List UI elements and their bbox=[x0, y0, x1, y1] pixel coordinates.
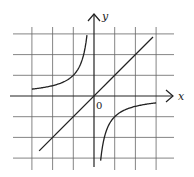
hyperbola-branch-upper-left bbox=[32, 35, 87, 89]
coordinate-plane-figure: x y 0 bbox=[0, 0, 194, 177]
y-axis-label: y bbox=[101, 10, 109, 23]
origin-label: 0 bbox=[96, 100, 102, 111]
line-y-equals-x bbox=[39, 37, 153, 151]
hyperbola-branch-lower-right bbox=[101, 103, 156, 161]
x-axis-label: x bbox=[178, 90, 185, 103]
